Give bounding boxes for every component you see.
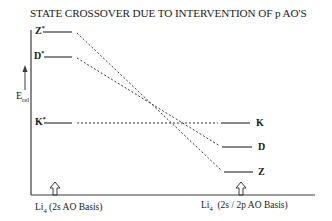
correlation-diagram [0, 0, 332, 221]
correlation-z [77, 33, 222, 171]
basis-arrow-right-icon [236, 182, 246, 195]
state-label-d: D [258, 142, 265, 152]
state-label-k: K [256, 118, 264, 128]
basis-label-right: Li4 (2s / 2p AO Basis) [201, 201, 288, 212]
state-label-z-star: Z* [35, 26, 45, 36]
state-label-d-star: D* [34, 51, 44, 61]
state-label-k-star: K* [35, 117, 46, 127]
basis-arrow-left-icon [50, 182, 60, 195]
state-label-z: Z [258, 167, 265, 177]
correlation-d [77, 58, 220, 146]
up-arrow-icon [23, 65, 28, 90]
basis-label-left: Li4 (2s AO Basis) [35, 203, 102, 214]
y-axis-label: Erel [16, 91, 29, 104]
